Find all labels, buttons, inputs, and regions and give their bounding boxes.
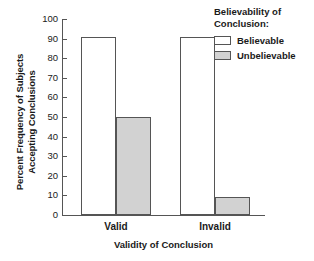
y-tick-mark [63, 39, 67, 40]
y-tick-label: 60 [47, 92, 58, 102]
y-tick-20: 20 [62, 176, 67, 177]
bar-valid-believable [81, 37, 116, 215]
y-tick-70: 70 [62, 78, 67, 79]
y-tick-mark [63, 117, 67, 118]
y-tick-mark [63, 58, 67, 59]
y-tick-mark [63, 19, 67, 20]
y-tick-label: 70 [47, 73, 58, 83]
y-tick-100: 100 [62, 19, 67, 20]
y-tick-mark [63, 78, 67, 79]
y-tick-label: 10 [47, 190, 58, 200]
open-box-swatch [214, 36, 231, 45]
bar-valid-unbelievable [116, 117, 151, 215]
y-tick-40: 40 [62, 137, 67, 138]
legend-title: Believability of Conclusion: [214, 6, 314, 30]
y-tick-mark [63, 215, 67, 216]
y-tick-0: 0 [62, 215, 67, 216]
x-axis-title: Validity of Conclusion [62, 239, 265, 250]
y-tick-90: 90 [62, 39, 67, 40]
legend-item-label: Unbelievable [237, 50, 296, 61]
y-tick-60: 60 [62, 97, 67, 98]
y-tick-label: 100 [42, 14, 58, 24]
bar-chart-figure: Percent Frequency of Subjects Accepting … [0, 0, 314, 261]
y-tick-mark [63, 97, 67, 98]
y-tick-mark [63, 195, 67, 196]
legend: Believability of Conclusion: BelievableU… [214, 6, 314, 61]
y-tick-10: 10 [62, 195, 67, 196]
legend-item-unbelievable: Unbelievable [214, 50, 314, 61]
y-tick-mark [63, 156, 67, 157]
filled-box-swatch [214, 51, 231, 60]
y-tick-label: 50 [47, 112, 58, 122]
y-tick-mark [63, 176, 67, 177]
y-tick-80: 80 [62, 58, 67, 59]
bar-invalid-believable [180, 37, 215, 215]
y-axis-title: Percent Frequency of Subjects Accepting … [14, 27, 38, 217]
x-axis-line [62, 215, 265, 216]
legend-item-believable: Believable [214, 35, 314, 46]
y-tick-label: 20 [47, 171, 58, 181]
y-tick-50: 50 [62, 117, 67, 118]
y-tick-label: 80 [47, 53, 58, 63]
y-tick-mark [63, 137, 67, 138]
legend-entries: BelievableUnbelievable [214, 35, 314, 61]
bar-invalid-unbelievable [215, 197, 250, 215]
group-label-invalid: Invalid [199, 221, 231, 232]
y-tick-label: 0 [53, 210, 58, 220]
y-tick-label: 40 [47, 132, 58, 142]
y-tick-label: 90 [47, 34, 58, 44]
y-tick-30: 30 [62, 156, 67, 157]
legend-item-label: Believable [237, 35, 284, 46]
group-label-valid: Valid [104, 221, 127, 232]
y-tick-label: 30 [47, 151, 58, 161]
